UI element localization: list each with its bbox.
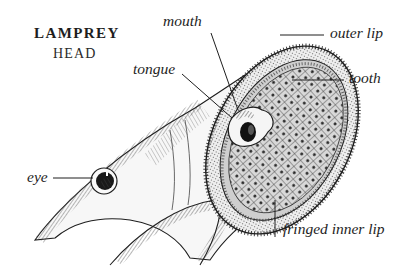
label-eye: eye: [27, 168, 48, 186]
label-outer-lip: outer lip: [330, 24, 383, 42]
label-fringed-inner-lip: fringed inner lip: [283, 220, 385, 238]
lamprey-head-diagram: LAMPREY HEAD mouth tongue outer lip toot…: [0, 0, 420, 280]
label-mouth: mouth: [163, 12, 202, 30]
eye: [91, 168, 117, 194]
label-tooth: tooth: [349, 69, 381, 87]
lamprey-illustration: [0, 0, 420, 280]
label-tongue: tongue: [133, 60, 175, 78]
diagram-title: LAMPREY: [34, 25, 120, 42]
diagram-subtitle: HEAD: [53, 46, 97, 62]
